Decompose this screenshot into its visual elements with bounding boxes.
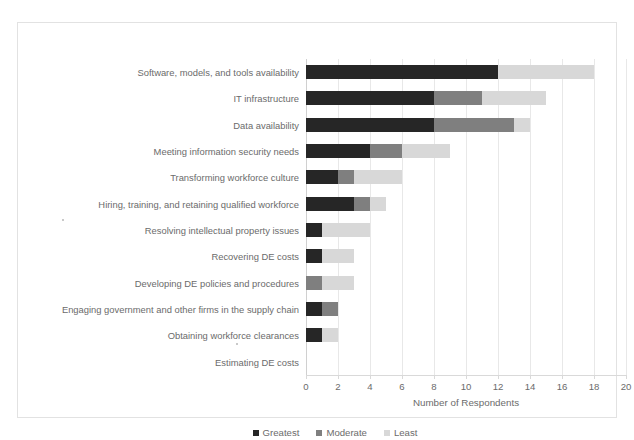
x-tick-label: 2 bbox=[335, 381, 340, 392]
bar-segment-least[interactable] bbox=[402, 144, 450, 158]
bar-track bbox=[306, 276, 626, 290]
bar-segment-greatest[interactable] bbox=[306, 170, 338, 184]
bar-track bbox=[306, 91, 626, 105]
bar-row[interactable]: Software, models, and tools availability bbox=[306, 59, 626, 85]
legend-swatch-moderate bbox=[316, 430, 322, 436]
x-tick-mark bbox=[434, 375, 435, 379]
legend-label: Greatest bbox=[263, 427, 300, 438]
bar-segment-least[interactable] bbox=[354, 170, 402, 184]
bar-row[interactable]: Engaging government and other firms in t… bbox=[306, 296, 626, 322]
bar-track bbox=[306, 197, 626, 211]
x-tick-mark bbox=[306, 375, 307, 379]
bar-rows: Software, models, and tools availability… bbox=[306, 59, 626, 375]
x-tick-label: 12 bbox=[493, 381, 504, 392]
x-tick-label: 14 bbox=[525, 381, 536, 392]
bar-row[interactable]: Obtaining workforce clearances bbox=[306, 322, 626, 348]
x-tick-label: 4 bbox=[367, 381, 372, 392]
x-axis-title: Number of Respondents bbox=[306, 397, 626, 408]
stacked-bar-chart: supply chain risk and mitigation strateg… bbox=[0, 0, 634, 440]
x-tick-label: 20 bbox=[621, 381, 632, 392]
artifact-speck bbox=[236, 343, 238, 345]
bar-track bbox=[306, 249, 626, 263]
category-label: Engaging government and other firms in t… bbox=[62, 304, 299, 315]
bar-segment-greatest[interactable] bbox=[306, 223, 322, 237]
legend-swatch-least bbox=[384, 430, 390, 436]
bar-track bbox=[306, 328, 626, 342]
x-tick-mark bbox=[370, 375, 371, 379]
bar-segment-least[interactable] bbox=[322, 328, 338, 342]
bar-track bbox=[306, 223, 626, 237]
bar-row[interactable]: Data availability bbox=[306, 112, 626, 138]
artifact-speck bbox=[62, 219, 64, 221]
legend-label: Moderate bbox=[326, 427, 367, 438]
legend-label: Least bbox=[394, 427, 417, 438]
chart-legend: GreatestModerateLeast bbox=[18, 427, 634, 438]
bar-track bbox=[306, 170, 626, 184]
category-label: Resolving intellectual property issues bbox=[145, 225, 299, 236]
x-tick-mark bbox=[594, 375, 595, 379]
bar-segment-greatest[interactable] bbox=[306, 91, 434, 105]
category-label: IT infrastructure bbox=[234, 93, 299, 104]
x-tick-label: 0 bbox=[303, 381, 308, 392]
bar-segment-least[interactable] bbox=[514, 118, 530, 132]
x-tick-mark bbox=[562, 375, 563, 379]
bar-segment-greatest[interactable] bbox=[306, 249, 322, 263]
bar-track bbox=[306, 118, 626, 132]
bar-row[interactable]: Recovering DE costs bbox=[306, 243, 626, 269]
bar-segment-greatest[interactable] bbox=[306, 65, 498, 79]
x-tick-label: 6 bbox=[399, 381, 404, 392]
bar-segment-moderate[interactable] bbox=[370, 144, 402, 158]
bar-segment-least[interactable] bbox=[322, 223, 370, 237]
bar-row[interactable]: Transforming workforce culture bbox=[306, 164, 626, 190]
category-label: Transforming workforce culture bbox=[170, 172, 299, 183]
bar-row[interactable]: IT infrastructure bbox=[306, 85, 626, 111]
x-tick-mark bbox=[530, 375, 531, 379]
x-tick-label: 10 bbox=[461, 381, 472, 392]
x-tick-mark bbox=[402, 375, 403, 379]
bar-row[interactable]: Estimating DE costs bbox=[306, 349, 626, 375]
bar-segment-greatest[interactable] bbox=[306, 144, 370, 158]
x-tick-mark bbox=[498, 375, 499, 379]
category-label: Obtaining workforce clearances bbox=[168, 330, 299, 341]
category-label: Software, models, and tools availability bbox=[137, 67, 299, 78]
legend-item-greatest[interactable]: Greatest bbox=[253, 427, 300, 438]
bar-segment-greatest[interactable] bbox=[306, 328, 322, 342]
bar-segment-moderate[interactable] bbox=[434, 118, 514, 132]
category-label: Recovering DE costs bbox=[211, 251, 299, 262]
chart-plot-frame: Software, models, and tools availability… bbox=[17, 22, 617, 418]
bar-row[interactable]: Developing DE policies and procedures bbox=[306, 270, 626, 296]
category-label: Estimating DE costs bbox=[215, 356, 299, 367]
bar-segment-least[interactable] bbox=[322, 249, 354, 263]
x-tick-mark bbox=[338, 375, 339, 379]
category-label: Data availability bbox=[233, 119, 299, 130]
bar-track bbox=[306, 302, 626, 316]
bar-segment-moderate[interactable] bbox=[322, 302, 338, 316]
bar-segment-moderate[interactable] bbox=[354, 197, 370, 211]
plot-area: Software, models, and tools availability… bbox=[306, 59, 626, 375]
x-tick-label: 8 bbox=[431, 381, 436, 392]
x-tick-label: 18 bbox=[589, 381, 600, 392]
x-tick-label: 16 bbox=[557, 381, 568, 392]
bar-segment-greatest[interactable] bbox=[306, 118, 434, 132]
bar-segment-moderate[interactable] bbox=[434, 91, 482, 105]
x-tick-mark bbox=[466, 375, 467, 379]
bar-segment-least[interactable] bbox=[370, 197, 386, 211]
category-label: Hiring, training, and retaining qualifie… bbox=[98, 198, 299, 209]
bar-row[interactable]: Meeting information security needs bbox=[306, 138, 626, 164]
bar-segment-moderate[interactable] bbox=[338, 170, 354, 184]
bar-segment-least[interactable] bbox=[322, 276, 354, 290]
bar-segment-least[interactable] bbox=[482, 91, 546, 105]
legend-item-least[interactable]: Least bbox=[384, 427, 417, 438]
bar-row[interactable]: Hiring, training, and retaining qualifie… bbox=[306, 191, 626, 217]
legend-item-moderate[interactable]: Moderate bbox=[316, 427, 367, 438]
gridline bbox=[626, 59, 627, 375]
category-label: Developing DE policies and procedures bbox=[135, 277, 299, 288]
bar-track bbox=[306, 355, 626, 369]
category-label: Meeting information security needs bbox=[154, 146, 299, 157]
bar-segment-greatest[interactable] bbox=[306, 197, 354, 211]
legend-swatch-greatest bbox=[253, 430, 259, 436]
bar-row[interactable]: Resolving intellectual property issues bbox=[306, 217, 626, 243]
bar-segment-least[interactable] bbox=[498, 65, 594, 79]
bar-segment-moderate[interactable] bbox=[306, 276, 322, 290]
bar-segment-greatest[interactable] bbox=[306, 302, 322, 316]
